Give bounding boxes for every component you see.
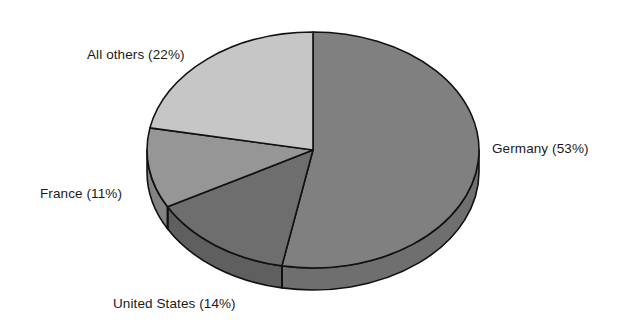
pie-slice-label-germany: Germany (53%)	[492, 141, 589, 156]
pie-chart: All others (22%) Germany (53%) France (1…	[0, 0, 626, 336]
pie-slice-label-united-states: United States (14%)	[113, 296, 236, 311]
pie-top-faces	[147, 32, 479, 268]
pie-slice-label-france: France (11%)	[40, 186, 122, 201]
pie-slice-label-all-others: All others (22%)	[87, 47, 185, 62]
